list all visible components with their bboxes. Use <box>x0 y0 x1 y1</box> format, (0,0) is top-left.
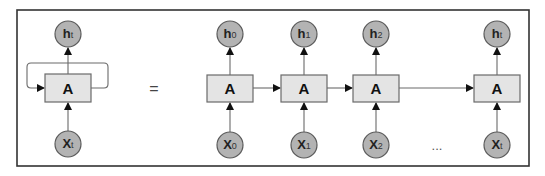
ellipsis: ... <box>432 138 443 153</box>
cell-label: A <box>225 80 236 97</box>
cell-label: A <box>299 80 310 97</box>
equals-sign: = <box>149 80 158 97</box>
cell-label: A <box>63 80 74 97</box>
rnn-unrolled-diagram: A ht Xt = A h0 X0 A h1 <box>0 0 545 176</box>
cell-label: A <box>492 80 503 97</box>
cell-label: A <box>371 80 382 97</box>
